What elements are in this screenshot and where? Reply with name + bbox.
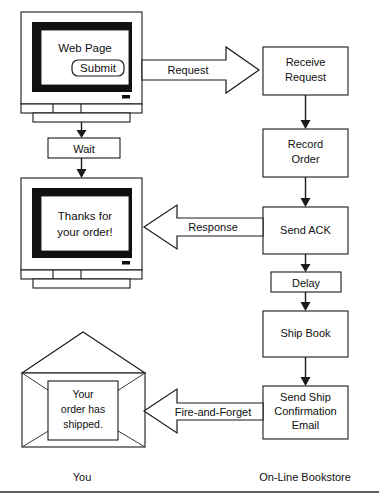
node-receive-request-line2: Request	[285, 71, 326, 83]
submit-button-label: Submit	[80, 62, 117, 74]
envelope-shipped: Your order has shipped.	[22, 332, 145, 447]
arrowhead-icon	[77, 169, 87, 178]
monitor-web-page: Web Page Submit	[21, 12, 142, 122]
flow-diagram-canvas: Web Page Submit Request Receive Request	[0, 0, 379, 504]
arrow-request-label: Request	[168, 64, 209, 76]
node-send-ack-label: Send ACK	[280, 224, 331, 236]
node-wait-label: Wait	[73, 143, 95, 155]
node-send-ship-email: Send Ship Confirmation Email	[263, 386, 348, 439]
node-send-ship-email-line1: Send Ship	[280, 391, 331, 403]
arrow-fire-and-forget: Fire-and-Forget	[144, 389, 263, 433]
node-record-order: Record Order	[263, 129, 348, 177]
monitor-base	[33, 279, 130, 288]
arrow-response-label: Response	[188, 221, 238, 233]
node-record-order-line1: Record	[288, 138, 323, 150]
arrowhead-icon	[77, 130, 87, 138]
connector-receive-to-record	[301, 95, 311, 129]
monitor-screen-text: Web Page	[58, 42, 112, 54]
envelope-letter-line2: order has	[61, 403, 105, 415]
arrowhead-icon	[301, 377, 311, 386]
node-record-order-line2: Order	[291, 153, 319, 165]
connector-record-to-ack	[301, 177, 311, 207]
monitor-screen	[41, 196, 129, 251]
lane-label-you: You	[73, 471, 92, 483]
connector-delay-to-ship	[301, 292, 311, 311]
power-led-icon	[122, 95, 130, 99]
lane-label-bookstore: On-Line Bookstore	[259, 471, 351, 483]
node-delay: Delay	[271, 272, 341, 292]
node-delay-label: Delay	[292, 277, 321, 289]
envelope-letter-line1: Your	[72, 388, 94, 400]
arrowhead-icon	[301, 198, 311, 207]
diagram-svg: Web Page Submit Request Receive Request	[0, 0, 379, 504]
monitor-screen-text-line1: Thanks for	[58, 210, 112, 222]
arrow-fire-and-forget-label: Fire-and-Forget	[175, 406, 251, 418]
power-led-icon	[122, 261, 130, 265]
node-send-ship-email-line2: Confirmation	[274, 405, 336, 417]
arrowhead-icon	[301, 120, 311, 129]
arrow-response: Response	[144, 205, 263, 249]
monitor-base	[33, 113, 130, 122]
node-receive-request: Receive Request	[263, 47, 348, 95]
arrowhead-icon	[301, 264, 311, 272]
node-send-ship-email-line3: Email	[292, 419, 320, 431]
node-ship-book: Ship Book	[263, 311, 348, 357]
connector-wait-to-monitor	[77, 158, 87, 178]
connector-monitor-to-wait	[77, 122, 87, 138]
node-wait: Wait	[48, 138, 120, 158]
arrowhead-icon	[301, 302, 311, 311]
monitor-screen-text-line2: your order!	[57, 226, 113, 238]
monitor-thanks: Thanks for your order!	[21, 178, 142, 288]
node-receive-request-line1: Receive	[286, 56, 326, 68]
connector-ship-to-email	[301, 357, 311, 386]
node-ship-book-label: Ship Book	[280, 327, 331, 339]
connector-ack-to-delay	[301, 254, 311, 272]
monitor-screen	[41, 30, 129, 85]
envelope-flap	[22, 332, 145, 373]
arrow-request: Request	[142, 47, 259, 93]
node-send-ack: Send ACK	[263, 207, 348, 254]
envelope-letter-line3: shipped.	[63, 418, 103, 430]
